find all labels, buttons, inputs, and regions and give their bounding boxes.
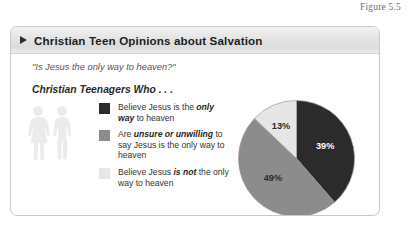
male-figure-icon — [53, 106, 71, 159]
people-group-icon — [27, 104, 75, 166]
legend-item: Are unsure or unwilling to say Jesus is … — [99, 129, 229, 161]
legend-swatch-not-only-way — [99, 168, 110, 179]
pie-chart-svg — [236, 98, 361, 216]
legend-label: Believe Jesus is the only way to heaven — [118, 102, 229, 123]
legend-label: Believe Jesus is not the only way to hea… — [118, 167, 229, 188]
legend-text-post: to heaven — [134, 113, 174, 123]
panel-body: "Is Jesus the only way to heaven?" Chris… — [11, 54, 379, 216]
figure-panel: Christian Teen Opinions about Salvation … — [10, 26, 380, 216]
panel-header: Christian Teen Opinions about Salvation — [11, 27, 379, 54]
legend-item: Believe Jesus is not the only way to hea… — [99, 167, 229, 188]
female-figure-icon — [28, 106, 50, 160]
pie-slice-label: 39% — [316, 141, 334, 151]
chart-legend: Believe Jesus is the only way to heaven … — [99, 102, 229, 194]
legend-item: Believe Jesus is the only way to heaven — [99, 102, 229, 123]
legend-text-pre: Are — [118, 129, 134, 139]
legend-heading: Christian Teenagers Who . . . — [32, 84, 173, 95]
legend-text-emphasis: unsure or unwilling — [134, 129, 213, 139]
survey-question: "Is Jesus the only way to heaven?" — [32, 62, 176, 72]
pie-chart: 39% 49% 13% — [236, 98, 361, 216]
legend-text-pre: Believe Jesus is the — [118, 102, 196, 112]
legend-label: Are unsure or unwilling to say Jesus is … — [118, 129, 229, 161]
legend-text-emphasis: is not — [173, 167, 196, 177]
legend-swatch-unsure — [99, 130, 110, 141]
pie-slice-label: 49% — [264, 173, 282, 183]
legend-swatch-only-way — [99, 103, 110, 114]
figure-caption: Figure 5.5 — [360, 2, 401, 12]
page-title: Christian Teen Opinions about Salvation — [34, 34, 263, 47]
triangle-right-icon — [20, 36, 27, 44]
legend-text-pre: Believe Jesus — [118, 167, 173, 177]
pie-slice-label: 13% — [272, 121, 290, 131]
